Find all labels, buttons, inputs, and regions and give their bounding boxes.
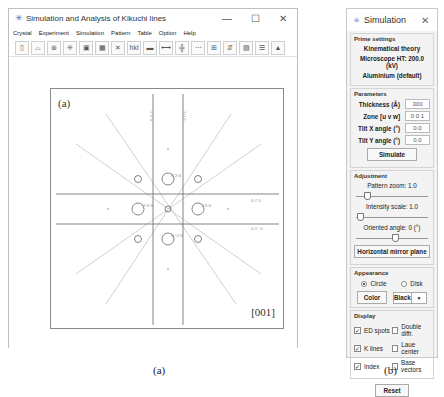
title-bar: ✳ Simulation and Analysis of Kikuchi lin… — [9, 9, 297, 27]
app-icon: ✳ — [15, 13, 23, 23]
reset-button[interactable]: Reset — [375, 384, 409, 397]
k-lines-check-icon[interactable]: ✓ — [354, 345, 361, 352]
dots-icon[interactable]: ⋯ — [191, 41, 205, 55]
horizontal-mirror-button[interactable]: Horizontal mirror plane — [354, 245, 430, 258]
kikuchi-pattern-graphic — [51, 89, 285, 330]
spot-label-020: 0 2 0 — [171, 173, 181, 178]
adjustment-label: Adjustment — [354, 173, 430, 179]
color-select[interactable]: Black▼ — [393, 292, 427, 304]
intensity-scale-thumb[interactable] — [357, 213, 364, 221]
oriented-angle-slider[interactable] — [356, 234, 428, 242]
database-icon[interactable]: ☰ — [255, 41, 269, 55]
line-label-020: 0 2 0 — [251, 198, 261, 203]
simulate-button[interactable]: Simulate — [367, 148, 417, 161]
close-button[interactable]: ✕ — [269, 13, 297, 24]
minimize-button[interactable]: — — [213, 13, 241, 24]
menu-crystal[interactable]: Crystal — [13, 30, 32, 36]
menu-bar: Crystal Experiment Simulation Pattern Ta… — [9, 27, 297, 39]
thickness-row: Thickness (Å) 300 — [354, 99, 430, 109]
zone-axis-label: [001] — [251, 306, 275, 318]
oriented-angle-thumb[interactable] — [392, 234, 399, 242]
k-lines-checkbox[interactable]: ✓K lines — [354, 341, 392, 355]
cross-grid-icon[interactable]: ╬ — [175, 41, 189, 55]
open-folder-icon[interactable]: ⌓ — [31, 41, 45, 55]
export-icon[interactable]: ▨ — [239, 41, 253, 55]
frame-icon[interactable]: ▣ — [79, 41, 93, 55]
laue-center-checkbox[interactable]: Laue center — [392, 341, 430, 355]
panel-close-button[interactable]: ✕ — [421, 15, 429, 26]
display-label: Display — [354, 313, 430, 319]
spacing-icon[interactable]: ⟷ — [159, 41, 173, 55]
window-title: Simulation and Analysis of Kikuchi lines — [26, 14, 213, 23]
zone-input[interactable]: 0 0 1 — [405, 111, 430, 121]
pattern-zoom-slider[interactable] — [356, 192, 428, 200]
kikuchi-icon[interactable]: ✕ — [111, 41, 125, 55]
color-button[interactable]: Color — [357, 291, 387, 304]
theory-text: Kinematical theory — [354, 45, 430, 52]
parameters-label: Parameters — [354, 91, 430, 97]
disk-radio[interactable]: Disk — [401, 280, 422, 287]
lock-icon[interactable]: ▲ — [271, 41, 285, 55]
pattern-canvas[interactable]: (a) [001] 0 2 0 2 0 0 -2 0 0 0 -2 0 2 0 … — [9, 58, 297, 348]
tilt-y-input[interactable]: 0.0 — [405, 135, 430, 145]
prime-settings-group: Prime settings Kinematical theory Micros… — [350, 33, 434, 86]
ruler-icon[interactable]: ⊞ — [207, 41, 221, 55]
microscope-text: Microscope HT: 200.0 (kV) — [354, 55, 430, 69]
double-diffr-checkbox[interactable]: Double diffr. — [392, 323, 430, 337]
spot-label-200: 2 0 0 — [201, 203, 211, 208]
disk-radio-dot[interactable] — [401, 281, 407, 287]
circle-radio[interactable]: Circle — [361, 280, 386, 287]
panel-title: Simulation — [364, 15, 406, 25]
intensity-scale-slider[interactable] — [356, 213, 428, 221]
caption-b: (b) — [384, 364, 397, 376]
line-label-200: 2 0 0 — [182, 111, 187, 121]
caption-a: (a) — [153, 364, 165, 376]
ed-spots-check-icon[interactable]: ✓ — [354, 327, 361, 334]
pattern-zoom-thumb[interactable] — [364, 192, 371, 200]
dropdown-arrow-icon[interactable]: ▼ — [411, 293, 426, 303]
new-file-icon[interactable]: ▯ — [15, 41, 29, 55]
index-label: Index — [364, 363, 379, 370]
ed-spots-checkbox[interactable]: ✓ED spots — [354, 323, 392, 337]
index-check-icon[interactable]: ✓ — [354, 363, 361, 370]
spot-label-0m20: 0 -2 0 — [171, 233, 183, 238]
zoom-icon[interactable]: ⇵ — [223, 41, 237, 55]
toolbar: ▯ ⌓ ⊛ ⁜ ▣ ▦ ✕ hkl ▬ ⟷ ╬ ⋯ ⊞ ⇵ ▨ ☰ ▲ — [9, 39, 297, 57]
hkl-label-icon[interactable]: hkl — [127, 41, 141, 55]
intensity-scale-label: Intensity scale: 1.0 — [354, 203, 430, 210]
line-icon[interactable]: ▬ — [143, 41, 157, 55]
tilt-y-label: Tilt Y angle (°) — [354, 137, 405, 144]
tilt-y-row: Tilt Y angle (°) 0.0 — [354, 135, 430, 145]
crystal-icon[interactable]: ⊛ — [47, 41, 61, 55]
tilt-x-label: Tilt X angle (°) — [354, 125, 405, 132]
double-diffr-box[interactable] — [392, 327, 398, 334]
double-diffr-label: Double diffr. — [401, 323, 430, 337]
panel-label: (a) — [58, 97, 70, 109]
appearance-group: Appearance Circle Disk Color Black▼ — [350, 267, 434, 308]
zone-label: Zone [u v w] — [354, 113, 405, 120]
base-vectors-checkbox[interactable]: Base vectors — [392, 359, 430, 373]
tilt-x-input[interactable]: 0.0 — [405, 123, 430, 133]
menu-option[interactable]: Option — [159, 30, 177, 36]
prime-settings-label: Prime settings — [354, 36, 430, 42]
menu-experiment[interactable]: Experiment — [39, 30, 69, 36]
line-label-0m20: 0 -2 0 — [251, 226, 263, 231]
parameters-group: Parameters Thickness (Å) 300 Zone [u v w… — [350, 88, 434, 168]
circle-radio-label: Circle — [370, 280, 386, 287]
menu-table[interactable]: Table — [137, 30, 151, 36]
lattice-icon[interactable]: ⁜ — [63, 41, 77, 55]
maximize-button[interactable]: ☐ — [241, 13, 269, 24]
menu-pattern[interactable]: Pattern — [111, 30, 130, 36]
menu-help[interactable]: Help — [183, 30, 195, 36]
line-label-m200: -2 0 0 — [149, 110, 154, 122]
adjustment-group: Adjustment Pattern zoom: 1.0 Intensity s… — [350, 170, 434, 265]
disk-radio-label: Disk — [410, 280, 422, 287]
thickness-input[interactable]: 300 — [405, 99, 430, 109]
tilt-x-row: Tilt X angle (°) 0.0 — [354, 123, 430, 133]
pattern-zoom-label: Pattern zoom: 1.0 — [354, 182, 430, 189]
grid-icon[interactable]: ▦ — [95, 41, 109, 55]
menu-simulation[interactable]: Simulation — [76, 30, 104, 36]
laue-center-box[interactable] — [392, 345, 398, 352]
circle-radio-dot[interactable] — [361, 281, 367, 287]
main-window: ✳ Simulation and Analysis of Kikuchi lin… — [8, 8, 298, 348]
